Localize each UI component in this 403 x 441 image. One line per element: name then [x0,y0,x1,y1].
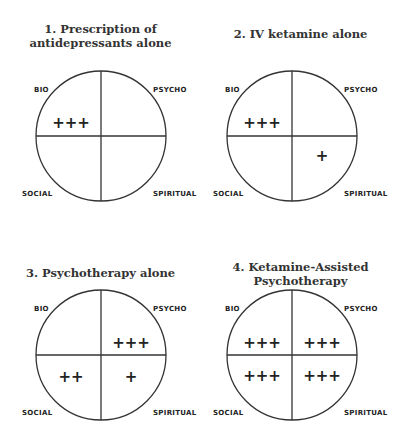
label-psycho: PSYCHO [344,305,378,313]
label-bio: BIO [34,86,49,94]
score-bio: +++ [52,114,90,132]
label-psycho: PSYCHO [344,86,378,94]
score-spiritual: + [316,147,329,165]
label-bio: BIO [225,305,240,313]
score-psycho: +++ [303,334,341,352]
score-spiritual: +++ [303,367,341,385]
label-social: SOCIAL [213,190,244,198]
score-social: ++ [58,368,83,386]
label-spiritual: SPIRITUAL [153,409,197,417]
quadrant-circle: BIO PSYCHO SOCIAL SPIRITUAL +++ + [200,0,403,220]
label-bio: BIO [225,86,240,94]
label-psycho: PSYCHO [153,305,187,313]
score-psycho: +++ [112,334,150,352]
label-spiritual: SPIRITUAL [344,190,388,198]
score-bio: +++ [243,114,281,132]
label-social: SOCIAL [213,409,244,417]
label-bio: BIO [34,305,49,313]
panel-antidepressants: 1. Prescription of antidepressants alone… [0,0,201,220]
label-social: SOCIAL [22,190,53,198]
label-spiritual: SPIRITUAL [344,409,388,417]
score-social: +++ [243,367,281,385]
panel-iv-ketamine: 2. IV ketamine alone BIO PSYCHO SOCIAL S… [200,0,401,220]
score-spiritual: + [125,368,138,386]
label-psycho: PSYCHO [153,86,187,94]
quadrant-circle: BIO PSYCHO SOCIAL SPIRITUAL +++ [0,0,201,220]
panel-ketamine-assisted-psychotherapy: 4. Ketamine-Assisted Psychotherapy BIO P… [200,220,401,440]
score-bio: +++ [243,334,281,352]
quadrant-circle: BIO PSYCHO SOCIAL SPIRITUAL +++ ++ + [0,220,201,441]
quadrant-circle: BIO PSYCHO SOCIAL SPIRITUAL +++ +++ +++ … [200,220,403,441]
label-spiritual: SPIRITUAL [153,190,197,198]
panel-psychotherapy: 3. Psychotherapy alone BIO PSYCHO SOCIAL… [0,220,201,440]
label-social: SOCIAL [22,409,53,417]
